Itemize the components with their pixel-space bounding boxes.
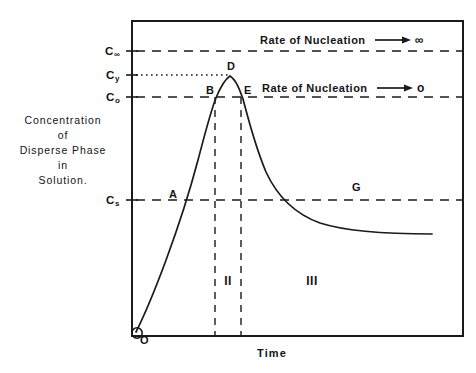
region-label-2: II (224, 274, 232, 288)
reference-lines (126, 51, 463, 200)
point-label-d: D (227, 60, 235, 72)
y-axis-title-line-4: in (58, 159, 68, 171)
annotation-arrow-zero-head (404, 84, 413, 91)
region-dividers (215, 97, 241, 336)
point-label-a: A (169, 188, 177, 200)
y-tick-c-infinity: C∞ (105, 45, 120, 59)
region-numerals: II III (224, 274, 318, 288)
point-label-e: E (244, 84, 251, 96)
curve-point-labels: O A B D E G (140, 60, 361, 346)
annotation-limit-infinite: ∞ (415, 33, 424, 47)
annotation-nucleation-zero-text: Rate of Nucleation (262, 82, 368, 94)
y-axis-title-line-2: of (58, 129, 69, 141)
region-label-3: III (306, 274, 318, 288)
y-tick-labels: C∞ Cy Co Cs (105, 45, 120, 208)
point-label-o: O (140, 334, 149, 346)
annotation-arrow-infinite-head (402, 36, 411, 43)
concentration-curve-group (132, 76, 432, 338)
plot-frame (131, 21, 464, 337)
point-label-g: G (352, 181, 361, 193)
y-axis-title: Concentration of Disperse Phase in Solut… (20, 114, 107, 186)
y-tick-c-s: Cs (106, 194, 120, 208)
lamer-diagram-figure: C∞ Cy Co Cs Concentration of Disperse Ph… (0, 0, 476, 373)
lamer-diagram-page: C∞ Cy Co Cs Concentration of Disperse Ph… (0, 0, 476, 373)
annotation-limit-zero: o (417, 81, 424, 95)
y-axis-title-line-5: Solution. (39, 174, 88, 186)
annotation-nucleation-zero: Rate of Nucleation o (262, 81, 424, 95)
concentration-curve (136, 76, 432, 332)
point-label-b: B (206, 84, 214, 96)
x-axis-title: Time (257, 347, 287, 359)
annotation-nucleation-infinite: Rate of Nucleation ∞ (260, 33, 424, 47)
y-axis-title-line-1: Concentration (24, 114, 101, 126)
y-tick-c-zero: Co (106, 91, 120, 105)
y-axis-title-line-3: Disperse Phase (20, 144, 107, 156)
annotation-nucleation-infinite-text: Rate of Nucleation (260, 34, 366, 46)
y-tick-c-gamma: Cy (106, 69, 120, 83)
